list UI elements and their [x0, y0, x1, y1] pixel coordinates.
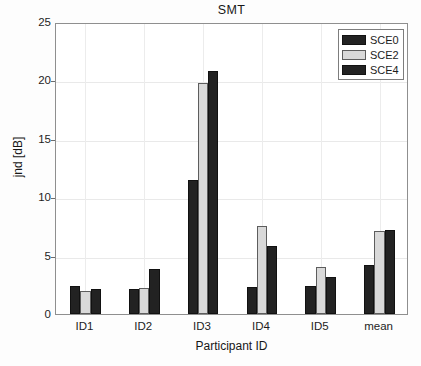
bar-ID5-SCE2 [316, 267, 326, 314]
bar-mean-SCE4 [385, 230, 395, 314]
chart-legend: SCE0SCE2SCE4 [338, 29, 404, 80]
legend-label-SCE0: SCE0 [370, 35, 399, 46]
bar-ID1-SCE2 [80, 291, 90, 314]
bar-ID4-SCE0 [247, 287, 257, 314]
legend-swatch-SCE2 [342, 50, 366, 60]
x-tick-label-ID5: ID5 [290, 320, 349, 332]
legend-item-SCE4[interactable]: SCE4 [342, 63, 400, 77]
legend-label-SCE2: SCE2 [370, 50, 399, 61]
bar-ID4-SCE2 [257, 226, 267, 314]
x-tick-label-ID3: ID3 [173, 320, 232, 332]
x-axis-title: Participant ID [55, 339, 408, 353]
bar-ID3-SCE0 [188, 180, 198, 314]
y-tick-label: 25 [21, 17, 51, 28]
chart-title: SMT [55, 3, 408, 17]
legend-swatch-SCE0 [342, 35, 366, 45]
y-tick-mark [51, 81, 55, 82]
y-tick-label: 10 [21, 192, 51, 203]
gridline-y-20 [56, 82, 407, 83]
bar-ID3-SCE4 [208, 71, 218, 314]
x-tick-label-ID4: ID4 [232, 320, 291, 332]
legend-label-SCE4: SCE4 [370, 65, 399, 76]
legend-item-SCE2[interactable]: SCE2 [342, 48, 400, 62]
y-tick-label: 15 [21, 134, 51, 145]
bar-mean-SCE2 [374, 231, 384, 315]
y-tick-mark [51, 257, 55, 258]
bar-ID2-SCE0 [129, 289, 139, 314]
bar-ID5-SCE0 [305, 286, 315, 314]
y-tick-label: 5 [21, 251, 51, 262]
bar-ID5-SCE4 [326, 277, 336, 314]
y-tick-label: 0 [21, 309, 51, 320]
bar-ID2-SCE4 [149, 269, 159, 314]
gridline-y-15 [56, 141, 407, 142]
bar-ID1-SCE4 [91, 289, 101, 314]
legend-item-SCE0[interactable]: SCE0 [342, 33, 400, 47]
bar-ID3-SCE2 [198, 83, 208, 314]
bar-ID4-SCE4 [267, 246, 277, 314]
x-tick-label-mean: mean [349, 320, 408, 332]
x-tick-label-ID2: ID2 [114, 320, 173, 332]
y-tick-mark [51, 198, 55, 199]
gridline-y-5 [56, 258, 407, 259]
x-axis-ticks: ID1ID2ID3ID4ID5mean [55, 320, 408, 336]
gridline-x-ID2 [144, 24, 145, 314]
bar-ID2-SCE2 [139, 288, 149, 314]
gridline-y-10 [56, 199, 407, 200]
x-tick-label-ID1: ID1 [55, 320, 114, 332]
figure-canvas: SMT 0510152025 ID1ID2ID3ID4ID5mean Parti… [0, 0, 421, 366]
legend-swatch-SCE4 [342, 65, 366, 75]
bar-ID1-SCE0 [70, 286, 80, 314]
y-tick-mark [51, 140, 55, 141]
bar-mean-SCE0 [364, 265, 374, 314]
y-axis-title: jnd [dB] [11, 97, 25, 217]
y-tick-label: 20 [21, 75, 51, 86]
gridline-x-ID1 [85, 24, 86, 314]
